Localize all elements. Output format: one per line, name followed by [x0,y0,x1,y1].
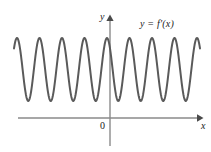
curve-equation-label: y = f'(x) [140,19,174,29]
origin-label: 0 [100,121,105,131]
figure-container: y x 0 y = f'(x) [0,0,211,152]
x-axis-label: x [201,121,205,131]
y-axis-label: y [100,12,104,22]
function-curve [14,38,200,101]
curve-group [14,38,200,101]
y-axis-arrow-icon [106,15,113,22]
plot-canvas [0,0,211,152]
